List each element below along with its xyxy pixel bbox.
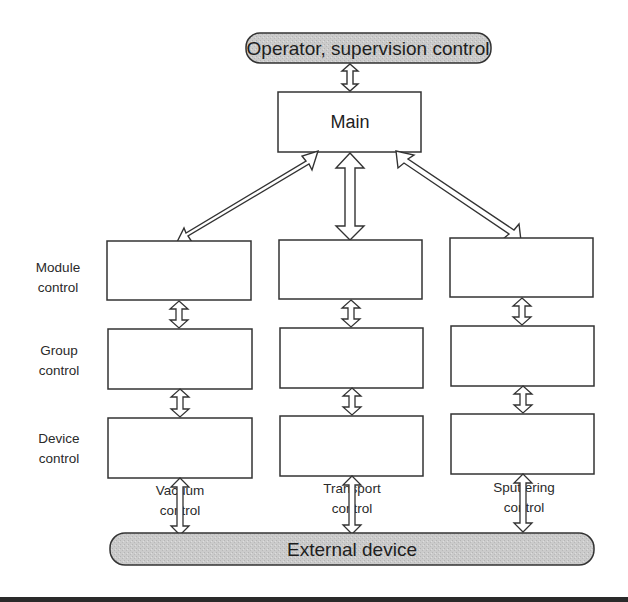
transport-group-box [280,328,423,388]
svg-text:Group: Group [40,343,78,358]
row-label-device: Device control [38,431,79,466]
vacuum-device-box [108,418,252,478]
transport-module-box [279,240,422,299]
bottom-bus-label: External device [287,539,417,560]
svg-text:Device: Device [38,431,79,446]
page-edge-bar [0,597,628,602]
top-bus-label: Operator, supervision control [247,38,490,59]
transport-column [279,240,423,476]
vacuum-column [107,241,252,478]
vacuum-group-box [108,329,252,389]
row-label-group: Group control [39,343,80,378]
double-arrow-icon [177,151,318,242]
sputtering-column [450,238,594,474]
svg-text:control: control [39,363,80,378]
operator-supervision-bus: Operator, supervision control [246,33,491,63]
sputtering-group-box [451,326,594,386]
row-label-module: Module control [36,260,80,295]
main-label: Main [330,112,369,132]
double-arrow-icon [342,64,358,91]
sputtering-module-box [450,238,593,297]
external-device-bus: External device [110,533,594,565]
svg-text:control: control [39,451,80,466]
double-arrow-icon [396,151,521,241]
double-arrow-icon [171,474,532,535]
main-box: Main [278,92,421,152]
double-arrow-icon [336,153,364,240]
svg-text:Module: Module [36,260,80,275]
vacuum-module-box [107,241,251,300]
sputtering-device-box [451,414,594,474]
transport-device-box [280,416,423,476]
control-hierarchy-diagram: Operator, supervision control Main Modul… [0,0,628,602]
svg-text:control: control [38,280,79,295]
